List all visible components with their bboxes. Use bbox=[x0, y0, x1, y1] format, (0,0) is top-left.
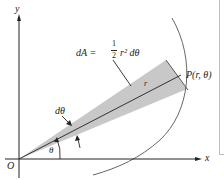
formula-frac-den: 2 bbox=[112, 52, 116, 60]
formula-frac-num: 1 bbox=[112, 40, 116, 48]
x-axis-arrow-icon bbox=[195, 157, 202, 161]
x-axis-label: x bbox=[205, 153, 209, 163]
radius-label: r bbox=[144, 80, 147, 88]
theta-label: θ bbox=[49, 146, 53, 155]
formula-lhs: dA = bbox=[76, 48, 96, 58]
formula-rhs: r² dθ bbox=[120, 48, 139, 58]
radius-line bbox=[19, 75, 181, 159]
dtheta-label: dθ bbox=[55, 106, 65, 116]
area-wedge bbox=[19, 60, 187, 159]
point-label: P(r, θ) bbox=[186, 70, 211, 80]
panel-border-bottom bbox=[219, 154, 224, 155]
y-axis-label: y bbox=[15, 4, 19, 14]
dtheta-arrowhead-lower-icon bbox=[75, 135, 80, 141]
y-axis-arrow-icon bbox=[17, 14, 21, 21]
formula-leader-line bbox=[113, 60, 131, 86]
panel-border-right bbox=[219, 0, 220, 155]
polar-area-diagram: y x O dA = 1 2 r² dθ P(r, θ) r dθ θ bbox=[0, 0, 224, 180]
dtheta-arrow-lower bbox=[78, 139, 80, 148]
diagram-canvas bbox=[0, 0, 224, 180]
origin-label: O bbox=[7, 161, 14, 171]
